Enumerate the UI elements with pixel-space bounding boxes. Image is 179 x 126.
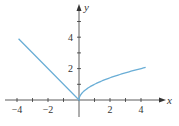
- y-axis-label: y: [83, 1, 89, 13]
- x-tick-label: −4: [12, 104, 23, 115]
- y-axis-arrow-icon: [77, 4, 82, 11]
- y-tick-label: 2: [68, 63, 73, 74]
- function-curve: [19, 39, 146, 100]
- x-tick-label: 4: [139, 104, 144, 115]
- x-tick-label: −2: [43, 104, 54, 115]
- x-axis-arrow-icon: [159, 98, 166, 103]
- y-tick-label: 4: [68, 32, 73, 43]
- axes: [5, 4, 166, 117]
- piecewise-function-chart: −4−22424 x y: [0, 0, 179, 126]
- x-axis-label: x: [166, 94, 172, 106]
- x-tick-label: 2: [108, 104, 113, 115]
